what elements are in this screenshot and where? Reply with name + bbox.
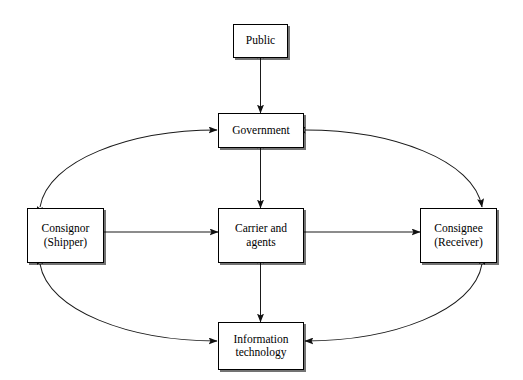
edge-consignee-information_technology bbox=[305, 264, 482, 341]
node-government[interactable]: Government bbox=[218, 113, 304, 148]
node-label-government: Government bbox=[230, 124, 291, 138]
node-carrier[interactable]: Carrier and agents bbox=[218, 208, 304, 263]
node-information_technology[interactable]: Information technology bbox=[218, 322, 304, 370]
edge-consignor-government bbox=[40, 130, 217, 207]
edge-government-consignee bbox=[305, 130, 482, 207]
node-consignor[interactable]: Consignor (Shipper) bbox=[27, 208, 104, 263]
node-label-consignee: Consignee (Receiver) bbox=[432, 222, 485, 249]
node-public[interactable]: Public bbox=[233, 24, 288, 58]
diagram-canvas: PublicGovernmentConsignor (Shipper)Carri… bbox=[0, 0, 523, 380]
node-label-carrier: Carrier and agents bbox=[233, 222, 289, 249]
node-consignee[interactable]: Consignee (Receiver) bbox=[420, 208, 497, 263]
node-label-public: Public bbox=[244, 34, 277, 48]
edge-consignor-information_technology bbox=[40, 264, 217, 341]
node-label-consignor: Consignor (Shipper) bbox=[40, 222, 92, 249]
node-label-information_technology: Information technology bbox=[232, 333, 291, 360]
